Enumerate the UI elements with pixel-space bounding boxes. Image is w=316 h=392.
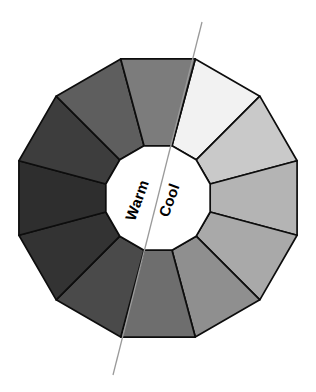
color-wheel-svg: WarmCool — [0, 0, 316, 392]
color-wheel-figure: WarmCool — [0, 0, 316, 392]
